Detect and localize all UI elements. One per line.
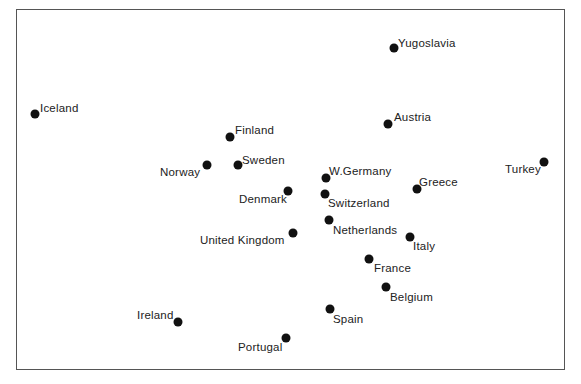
data-point [31, 110, 40, 119]
point-label: Spain [333, 314, 363, 326]
data-point [282, 334, 291, 343]
point-label: Norway [160, 167, 200, 179]
point-label: W.Germany [329, 166, 392, 178]
point-label: Yugoslavia [398, 38, 456, 50]
point-label: Belgium [390, 292, 433, 304]
data-point [289, 229, 298, 238]
data-point [203, 161, 212, 170]
point-label: Greece [419, 177, 458, 189]
point-label: Austria [394, 112, 431, 124]
point-label: Netherlands [333, 225, 397, 237]
point-label: Sweden [242, 155, 285, 167]
data-point [226, 133, 235, 142]
point-label: Iceland [40, 103, 78, 115]
point-label: Turkey [505, 164, 541, 176]
point-label: Ireland [137, 310, 174, 322]
point-label: Portugal [238, 342, 282, 354]
point-label: Italy [413, 241, 435, 253]
point-label: Denmark [239, 194, 287, 206]
point-label: Finland [235, 125, 274, 137]
point-label: United Kingdom [200, 235, 285, 247]
data-point [174, 318, 183, 327]
point-label: Switzerland [328, 198, 390, 210]
data-point [365, 255, 374, 264]
point-label: France [374, 263, 411, 275]
data-point [384, 120, 393, 129]
